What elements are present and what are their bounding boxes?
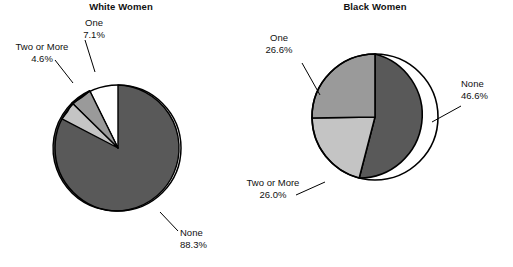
left-leader-none: [160, 212, 178, 231]
right-pie-svg: [256, 0, 513, 267]
left-pie-slices: [53, 85, 181, 211]
pie-chart-figure: White Women One 7.1% Two or More 4.6% No…: [0, 0, 513, 267]
left-leader-one: [85, 40, 95, 72]
right-leader-one: [302, 63, 320, 95]
right-pie-slices: [312, 54, 438, 180]
right-leader-two-or-more: [296, 182, 325, 195]
right-leader-none: [432, 106, 461, 122]
left-pie-svg: [0, 0, 257, 267]
right-slice-one: [312, 54, 375, 118]
left-leader-two-or-more: [55, 60, 73, 83]
